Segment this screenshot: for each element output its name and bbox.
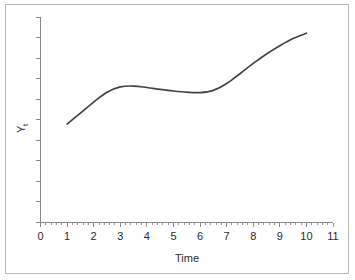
chart-canvas: 01234567891011 Time Y t	[0, 0, 355, 280]
x-tick-label: 3	[117, 230, 123, 242]
x-axis-title: Time	[175, 252, 199, 264]
y-axis-ticks	[36, 17, 41, 223]
figure-container: 01234567891011 Time Y t	[0, 0, 355, 280]
y-axis-title-subscript: t	[21, 123, 30, 126]
x-tick-label: 7	[224, 230, 230, 242]
x-tick-label: 8	[250, 230, 256, 242]
x-tick-label: 0	[37, 230, 43, 242]
x-tick-label: 6	[197, 230, 203, 242]
x-axis-ticks	[41, 223, 334, 228]
x-axis-group: 01234567891011	[37, 223, 338, 242]
data-series-line	[67, 33, 306, 124]
x-tick-label: 2	[91, 230, 97, 242]
x-tick-label: 10	[300, 230, 312, 242]
x-tick-label: 9	[277, 230, 283, 242]
y-axis-title: Y t	[15, 123, 30, 133]
x-tick-label: 1	[64, 230, 70, 242]
x-tick-label: 11	[327, 230, 338, 242]
x-tick-label: 5	[170, 230, 176, 242]
x-axis-tick-labels: 01234567891011	[37, 230, 338, 242]
y-axis-group	[36, 17, 41, 223]
x-tick-label: 4	[144, 230, 150, 242]
